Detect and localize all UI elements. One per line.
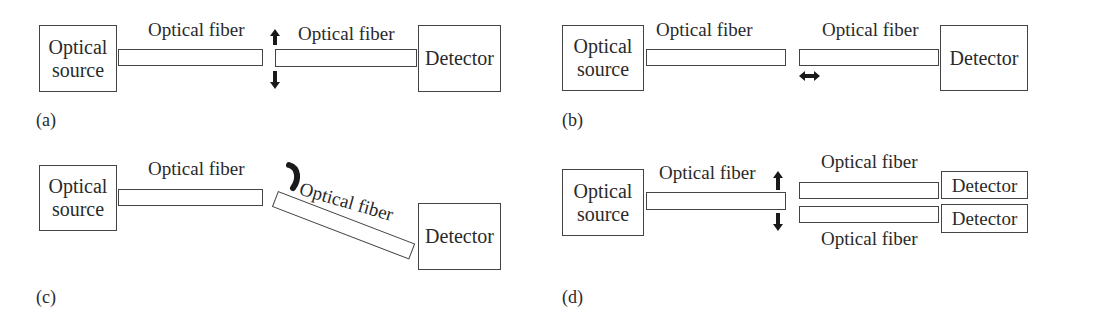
motion-arrows-layer — [0, 0, 1096, 325]
down-arrow-icon — [773, 213, 783, 231]
up-arrow-icon — [773, 171, 783, 190]
horizontal-double-arrow-icon — [799, 71, 820, 81]
rotation-arrow-icon — [289, 165, 297, 188]
up-arrow-icon — [270, 29, 280, 45]
down-arrow-icon — [270, 71, 280, 89]
